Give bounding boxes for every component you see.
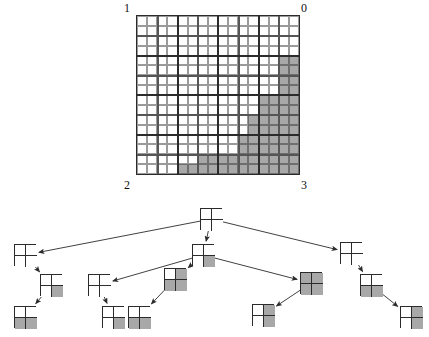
quadtree-node-quadrant <box>26 256 37 267</box>
region-cell <box>259 95 269 105</box>
quadtree-node <box>200 208 222 230</box>
region-cell <box>228 16 238 26</box>
region-cell <box>157 135 167 145</box>
region-cell <box>178 56 188 66</box>
quadtree-node-quadrant <box>352 254 363 265</box>
region-cell <box>198 95 208 105</box>
quadtree-node-quadrant <box>341 254 352 265</box>
quadtree-node-quadrant <box>201 209 212 220</box>
region-cell <box>137 95 147 105</box>
region-cell <box>238 135 248 145</box>
quadtree-edge <box>36 296 42 304</box>
quadtree-node-quadrant <box>26 245 37 256</box>
quadtree-node <box>192 244 214 266</box>
quadtree-node-quadrant <box>103 307 114 318</box>
region-cell <box>147 56 157 66</box>
quadtree-node <box>102 306 124 328</box>
quadtree-node-quadrant <box>212 209 223 220</box>
region-cell <box>188 16 198 26</box>
region-quadrant-line <box>217 16 219 174</box>
region-cell <box>279 164 289 174</box>
region-cell <box>198 16 208 26</box>
region-cell <box>188 164 198 174</box>
region-corner-label-2: 2 <box>124 179 130 191</box>
quadtree-node-quadrant <box>176 269 187 280</box>
quadtree-edge <box>214 258 297 280</box>
region-grid-wrapper <box>136 15 300 175</box>
region-corner-label-1: 1 <box>124 2 130 14</box>
quadtree-node-quadrant <box>312 284 323 295</box>
region-cell <box>228 56 238 66</box>
region-cell <box>269 135 279 145</box>
region-cell <box>259 164 269 174</box>
quadtree-node-quadrant <box>176 280 187 291</box>
region-cell <box>218 164 228 174</box>
quadtree-node-quadrant <box>41 275 52 286</box>
quadtree-node-quadrant <box>264 316 275 327</box>
region-cell <box>279 95 289 105</box>
region-cell <box>218 56 228 66</box>
quadtree-node <box>88 274 110 296</box>
region-cell <box>188 56 198 66</box>
region-cell <box>269 95 279 105</box>
region-cell <box>157 56 167 66</box>
quadtree-node <box>14 306 36 328</box>
region-cell <box>178 135 188 145</box>
region-cell <box>259 135 269 145</box>
region-cell <box>289 135 299 145</box>
quadtree-node-quadrant <box>401 307 412 318</box>
quadtree-node <box>300 272 322 294</box>
quadtree-node-quadrant <box>26 318 37 329</box>
region-cell <box>269 16 279 26</box>
region-grid <box>136 15 300 175</box>
region-cell <box>279 135 289 145</box>
region-cell <box>137 164 147 174</box>
quadtree-node <box>14 244 36 266</box>
region-cell <box>147 135 157 145</box>
region-cell <box>269 56 279 66</box>
region-quadrant-line <box>258 16 260 174</box>
quadtree-node-quadrant <box>165 280 176 291</box>
region-cell <box>238 16 248 26</box>
quadtree-node-quadrant <box>412 307 423 318</box>
quadtree-node-quadrant <box>372 275 383 286</box>
quadtree-node-quadrant <box>412 318 423 329</box>
region-cell <box>289 164 299 174</box>
quadtree-node-quadrant <box>204 245 215 256</box>
quadtree-node-quadrant <box>41 286 52 297</box>
region-cell <box>137 16 147 26</box>
quadtree-node-quadrant <box>193 256 204 267</box>
quadtree-edge <box>206 230 208 241</box>
region-cell <box>147 95 157 105</box>
region-cell <box>147 16 157 26</box>
region-cell <box>289 16 299 26</box>
quadtree-node-quadrant <box>52 286 63 297</box>
quadtree-node <box>252 304 274 326</box>
quadtree-edge <box>104 296 107 303</box>
quadtree-node-quadrant <box>15 307 26 318</box>
quadtree-node-quadrant <box>100 286 111 297</box>
quadtree-node <box>164 268 186 290</box>
region-cell <box>198 56 208 66</box>
quadtree-node-quadrant <box>212 220 223 231</box>
quadtree-node-quadrant <box>26 307 37 318</box>
region-cell <box>279 56 289 66</box>
quadtree-node-quadrant <box>264 305 275 316</box>
quadtree-node-quadrant <box>312 273 323 284</box>
quadtree-edge <box>39 221 200 252</box>
quadtree-node-quadrant <box>15 318 26 329</box>
region-cell <box>157 16 167 26</box>
quadtree-edge <box>358 264 363 271</box>
region-cell <box>289 56 299 66</box>
quadtree-node-quadrant <box>361 275 372 286</box>
region-cell <box>147 164 157 174</box>
quadtree-edge <box>151 290 164 304</box>
region-cell <box>218 16 228 26</box>
region-quadrant-line <box>177 16 179 174</box>
region-cell <box>238 56 248 66</box>
quadtree-node-quadrant <box>193 245 204 256</box>
region-cell <box>218 135 228 145</box>
region-cell <box>188 135 198 145</box>
quadtree-node-quadrant <box>341 243 352 254</box>
region-cell <box>218 95 228 105</box>
